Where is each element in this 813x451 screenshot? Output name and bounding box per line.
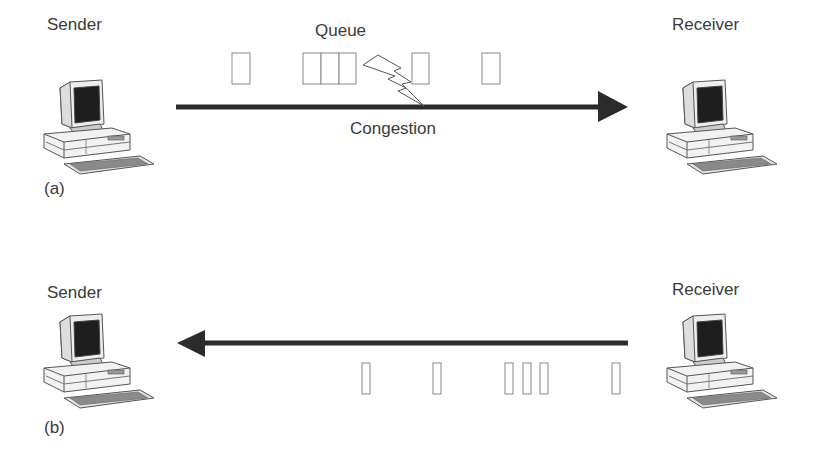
packet — [232, 53, 250, 84]
sender-computer-a — [44, 80, 154, 174]
packet — [482, 53, 500, 84]
receiver-computer-b — [667, 314, 777, 408]
ack-arrow — [177, 330, 628, 357]
packet — [412, 53, 429, 84]
ack-packets-b — [362, 363, 620, 394]
queued-packet — [303, 53, 321, 84]
ack-packet — [612, 363, 620, 394]
forward-arrow — [176, 91, 628, 122]
queued-packet — [339, 53, 356, 84]
ack-packet — [433, 363, 441, 394]
queued-packet — [321, 53, 339, 84]
ack-packet — [540, 363, 548, 394]
diagram-canvas — [0, 0, 813, 451]
ack-packet — [362, 363, 370, 394]
receiver-computer-a — [667, 80, 777, 174]
ack-packet — [523, 363, 531, 394]
data-packets-a — [232, 53, 500, 84]
sender-computer-b — [44, 314, 154, 408]
ack-packet — [505, 363, 513, 394]
